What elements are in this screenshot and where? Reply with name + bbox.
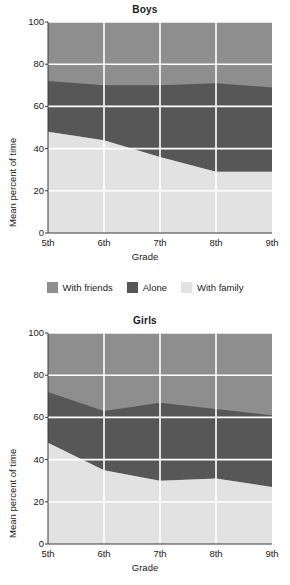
x-tick-label: 7th — [140, 549, 180, 559]
legend-label-alone: Alone — [143, 282, 167, 293]
y-tick-label: 40 — [14, 455, 44, 465]
x-tick-label: 6th — [84, 549, 124, 559]
legend-swatch-with-family — [181, 282, 192, 293]
x-axis-label-girls: Grade — [0, 562, 290, 573]
y-tick-label: 20 — [14, 186, 44, 196]
x-tick-label: 9th — [252, 549, 290, 559]
y-tick-label: 100 — [14, 328, 44, 338]
x-tick-label: 9th — [252, 238, 290, 248]
legend-label-with-family: With family — [197, 282, 243, 293]
x-tick-label: 6th — [84, 238, 124, 248]
legend-item-with-family: With family — [181, 282, 243, 293]
x-tick-label: 5th — [28, 238, 68, 248]
y-tick-label: 60 — [14, 412, 44, 422]
x-axis-label-boys: Grade — [0, 251, 290, 262]
x-tick-label: 8th — [196, 549, 236, 559]
legend-swatch-with-friends — [47, 282, 58, 293]
y-tick-label: 80 — [14, 59, 44, 69]
legend-item-with-friends: With friends — [47, 282, 113, 293]
y-tick-label: 60 — [14, 101, 44, 111]
y-tick-label: 40 — [14, 144, 44, 154]
y-tick-label: 20 — [14, 497, 44, 507]
y-tick-label: 80 — [14, 370, 44, 380]
legend-label-with-friends: With friends — [63, 282, 113, 293]
chart-panel-girls: Girls Mean percent of time Grade 0204060… — [0, 310, 290, 585]
x-tick-label: 8th — [196, 238, 236, 248]
legend-item-alone: Alone — [127, 282, 167, 293]
y-tick-label: 100 — [14, 17, 44, 27]
x-tick-label: 7th — [140, 238, 180, 248]
x-tick-label: 5th — [28, 549, 68, 559]
plot-area-boys — [0, 0, 290, 260]
area-chart-boys — [0, 0, 290, 260]
legend-swatch-alone — [127, 282, 138, 293]
y-tick-label: 0 — [14, 539, 44, 549]
chart-panel-boys: Boys Mean percent of time Grade 02040608… — [0, 0, 290, 260]
y-tick-label: 0 — [14, 228, 44, 238]
chart-legend: With friends Alone With family — [0, 277, 290, 297]
